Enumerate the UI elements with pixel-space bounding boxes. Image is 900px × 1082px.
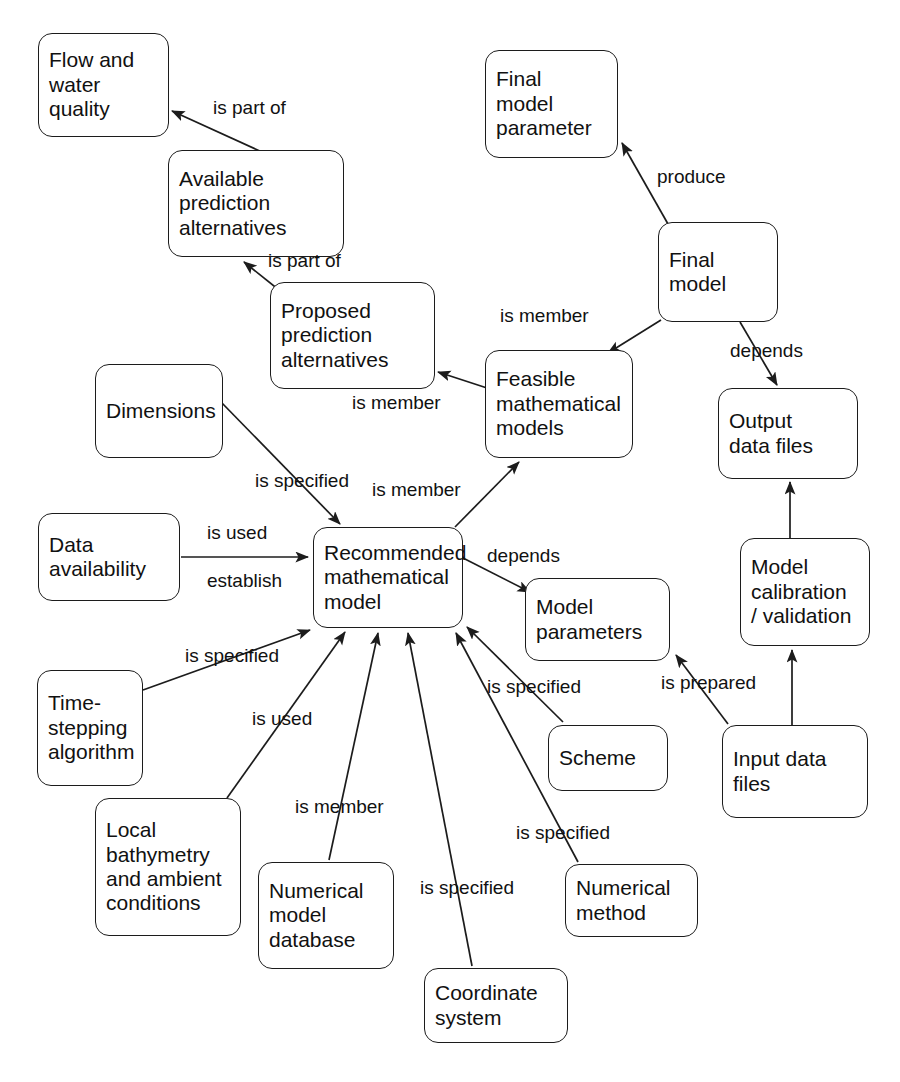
edge-label-e10: is member bbox=[500, 305, 589, 327]
node-dimensions[interactable]: Dimensions bbox=[95, 364, 223, 458]
edge-label-e6: is used bbox=[207, 522, 267, 544]
node-final_model_parameter[interactable]: Final model parameter bbox=[485, 50, 618, 158]
edge-numerical_model_database-to-recommended_mathematical_model bbox=[329, 633, 378, 860]
edge-label-e9: produce bbox=[657, 166, 726, 188]
node-final_model[interactable]: Final model bbox=[658, 222, 778, 322]
node-input_data_files[interactable]: Input data files bbox=[722, 725, 868, 818]
node-numerical_model_database[interactable]: Numerical model database bbox=[258, 862, 394, 969]
node-coordinate_system[interactable]: Coordinate system bbox=[424, 968, 568, 1043]
node-recommended_mathematical_model[interactable]: Recommended mathematical model bbox=[313, 527, 463, 628]
node-model_parameters[interactable]: Model parameters bbox=[525, 578, 670, 661]
edge-dimensions-to-recommended_mathematical_model bbox=[221, 402, 340, 524]
edge-label-e14: is prepared bbox=[661, 672, 756, 694]
edge-label-e17: is specified bbox=[420, 877, 514, 899]
node-local_bathymetry[interactable]: Local bathymetry and ambient conditions bbox=[95, 798, 241, 936]
edge-label-e18: is member bbox=[295, 796, 384, 818]
edge-label-e4: is specified bbox=[255, 470, 349, 492]
concept-map-canvas: Flow and water qualityAvailable predicti… bbox=[0, 0, 900, 1082]
edge-recommended_mathematical_model-to-feasible_mathematical_models bbox=[455, 462, 519, 527]
node-feasible_mathematical_models[interactable]: Feasible mathematical models bbox=[485, 350, 633, 458]
node-data_availability[interactable]: Data availability bbox=[38, 513, 180, 601]
node-model_calibration_validation[interactable]: Model calibration / validation bbox=[740, 538, 870, 646]
node-proposed_prediction_alternatives[interactable]: Proposed prediction alternatives bbox=[270, 282, 435, 389]
node-time_stepping_algorithm[interactable]: Time- stepping algorithm bbox=[37, 670, 143, 786]
edge-final_model-to-feasible_mathematical_models bbox=[608, 320, 661, 353]
edge-label-e2: is part of bbox=[268, 250, 341, 272]
node-available_prediction_alternatives[interactable]: Available prediction alternatives bbox=[168, 150, 344, 257]
edge-label-e3: is member bbox=[352, 392, 441, 414]
edge-coordinate_system-to-recommended_mathematical_model bbox=[408, 633, 472, 966]
edge-label-e7: establish bbox=[207, 570, 282, 592]
edge-label-e19: is used bbox=[252, 708, 312, 730]
node-scheme[interactable]: Scheme bbox=[548, 725, 668, 791]
edge-label-e15: is specified bbox=[487, 676, 581, 698]
node-output_data_files[interactable]: Output data files bbox=[718, 388, 858, 479]
edge-label-e11: depends bbox=[730, 340, 803, 362]
edge-feasible_mathematical_models-to-proposed_prediction_alternatives bbox=[438, 372, 487, 388]
edge-label-e1: is part of bbox=[213, 97, 286, 119]
edge-label-e16: is specified bbox=[516, 822, 610, 844]
node-numerical_method[interactable]: Numerical method bbox=[565, 864, 698, 937]
edge-label-e5: is member bbox=[372, 479, 461, 501]
edge-label-e8: depends bbox=[487, 545, 560, 567]
node-flow_water_quality[interactable]: Flow and water quality bbox=[38, 33, 169, 137]
edge-label-e20: is specified bbox=[185, 645, 279, 667]
